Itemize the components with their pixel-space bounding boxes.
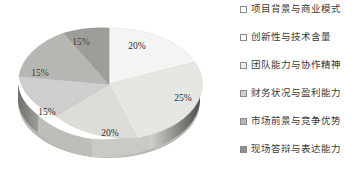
pie-top-face	[19, 28, 202, 138]
pie-slice-label-3: 20%	[101, 128, 118, 138]
legend-item-label: 市场前景与竞争优势	[251, 115, 341, 127]
legend-item-3[interactable]: 团队能力与协作精神	[240, 58, 341, 72]
legend-item-5[interactable]: 市场前景与竞争优势	[240, 114, 341, 128]
legend-item-label: 团队能力与协作精神	[251, 59, 341, 71]
legend-item-label: 财务状况与盈利能力	[251, 87, 341, 99]
legend-item-label: 创新性与技术含量	[251, 31, 331, 43]
legend-swatch-dark	[240, 118, 247, 125]
legend-swatch-light	[240, 62, 247, 69]
legend-item-4[interactable]: 财务状况与盈利能力	[240, 86, 341, 100]
pie-slice-label-6: 15%	[72, 37, 89, 47]
legend-item-label: 项目背景与商业模式	[251, 3, 341, 15]
legend-swatch-medium	[240, 90, 247, 97]
pie-chart-svg	[0, 0, 226, 176]
legend-swatch-darkest	[240, 146, 247, 153]
legend-swatch-empty	[240, 6, 247, 13]
pie-slice-label-2: 25%	[174, 93, 191, 103]
chart-legend: 项目背景与商业模式 创新性与技术含量 团队能力与协作精神 财务状况与盈利能力 市…	[240, 0, 359, 176]
pie-chart-plot-area: 20% 25% 20% 15% 15% 15%	[0, 0, 226, 176]
legend-swatch-empty	[240, 34, 247, 41]
legend-item-6[interactable]: 现场答辩与表达能力	[240, 142, 341, 156]
pie-chart-figure: 20% 25% 20% 15% 15% 15% 项目背景与商业模式 创新性与技术…	[0, 0, 359, 176]
legend-item-2[interactable]: 创新性与技术含量	[240, 30, 331, 44]
legend-item-label: 现场答辩与表达能力	[251, 143, 341, 155]
pie-slice-label-4: 15%	[38, 107, 55, 117]
legend-item-1[interactable]: 项目背景与商业模式	[240, 2, 341, 16]
pie-slice-label-5: 15%	[31, 68, 48, 78]
pie-slice-label-1: 20%	[128, 41, 145, 51]
